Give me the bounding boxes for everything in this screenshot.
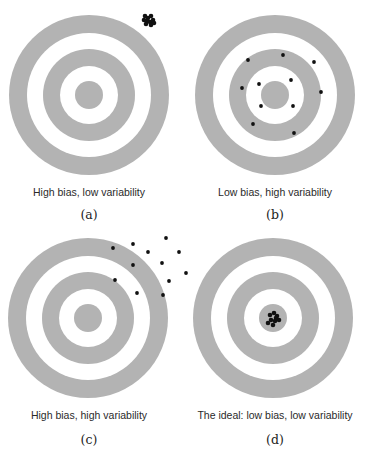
target-panel-b — [195, 15, 355, 175]
shot-dot — [113, 278, 117, 282]
shot-dot — [257, 82, 261, 86]
shot-dot — [291, 104, 295, 108]
bullseye — [74, 304, 102, 332]
shot-dot — [319, 90, 323, 94]
shot-dot — [144, 22, 149, 27]
shot-dot — [111, 246, 115, 250]
shot-dot — [251, 122, 255, 126]
shot-dot — [152, 21, 157, 26]
shot-dot — [184, 271, 188, 275]
shot-dot — [266, 321, 271, 326]
shot-dot — [240, 86, 244, 90]
bullseye — [75, 81, 103, 109]
shot-group — [142, 14, 157, 28]
shot-dot — [135, 291, 139, 295]
shot-dot — [274, 316, 279, 321]
shot-dot — [146, 250, 150, 254]
target-panel-c — [8, 236, 188, 398]
shot-dot — [246, 58, 250, 62]
target-icon — [193, 238, 353, 398]
shot-dot — [167, 279, 171, 283]
shot-dot — [289, 78, 293, 82]
shot-dot — [131, 263, 135, 267]
bullseye — [259, 304, 287, 332]
target-panel-a — [9, 14, 169, 175]
shot-dot — [281, 53, 285, 57]
shot-dot — [164, 236, 168, 240]
shot-dot — [292, 131, 296, 135]
shot-dot — [160, 261, 164, 265]
shot-dot — [161, 293, 165, 297]
shot-dot — [177, 250, 181, 254]
shot-dot — [131, 242, 135, 246]
bullseye — [261, 81, 289, 109]
target-panel-d — [193, 238, 353, 398]
bias-variability-targets-figure — [0, 0, 368, 463]
shot-dot — [142, 18, 147, 23]
shot-dot — [149, 14, 154, 19]
shot-dot — [312, 60, 316, 64]
shot-dot — [259, 104, 263, 108]
target-icon — [8, 238, 168, 398]
shot-dot — [268, 313, 273, 318]
shot-dot — [271, 323, 276, 328]
target-icon — [195, 15, 355, 175]
target-icon — [9, 15, 169, 175]
